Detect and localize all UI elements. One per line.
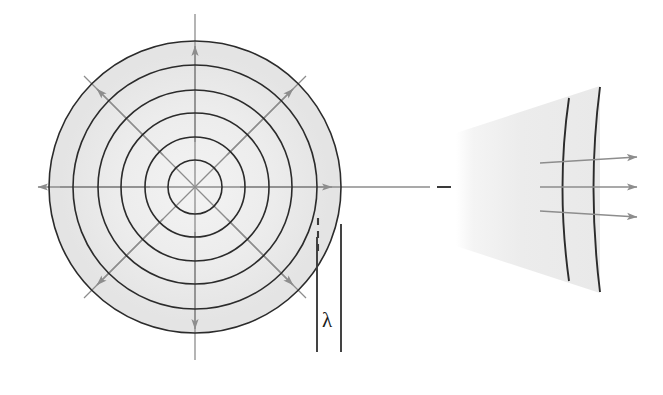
wavelength-label: λ: [322, 308, 333, 332]
wave-diagram-canvas: λ: [0, 0, 663, 395]
wave-diagram-figure: λ: [0, 0, 663, 395]
far-field-beam: [456, 86, 600, 293]
beam-cone-shading: [456, 86, 600, 293]
